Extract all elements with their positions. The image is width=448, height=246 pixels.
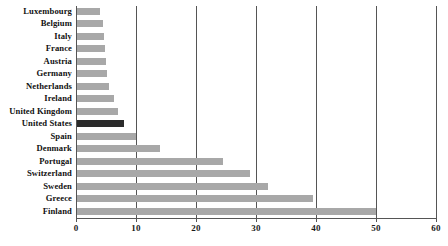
x-tick-label-30: 30: [251, 223, 260, 233]
category-label-united-states: United States: [22, 118, 72, 130]
bar-united-states: [76, 120, 124, 127]
category-label-belgium: Belgium: [41, 18, 72, 30]
bar-netherlands: [76, 83, 109, 90]
x-tick-mark-30: [256, 218, 257, 222]
category-label-germany: Germany: [36, 68, 72, 80]
category-label-united-kingdom: United Kingdom: [9, 106, 72, 118]
bar-germany: [76, 70, 107, 77]
bar-switzerland: [76, 170, 250, 177]
category-label-greece: Greece: [46, 193, 72, 205]
bar-spain: [76, 133, 136, 140]
category-label-sweden: Sweden: [43, 181, 72, 193]
bar-ireland: [76, 95, 114, 102]
category-label-switzerland: Switzerland: [27, 168, 72, 180]
bar-france: [76, 45, 105, 52]
bar-italy: [76, 33, 104, 40]
x-tick-mark-0: [76, 218, 77, 222]
category-label-portugal: Portugal: [39, 156, 72, 168]
bar-greece: [76, 195, 313, 202]
category-label-finland: Finland: [43, 206, 72, 218]
bar-luxembourg: [76, 8, 100, 15]
bar-portugal: [76, 158, 223, 165]
y-axis-line: [76, 6, 77, 218]
x-tick-mark-10: [136, 218, 137, 222]
x-tick-mark-60: [436, 218, 437, 222]
x-tick-mark-50: [376, 218, 377, 222]
x-tick-label-60: 60: [431, 223, 440, 233]
category-label-italy: Italy: [54, 31, 72, 43]
x-tick-mark-20: [196, 218, 197, 222]
bar-finland: [76, 208, 376, 215]
category-label-netherlands: Netherlands: [26, 81, 72, 93]
category-label-denmark: Denmark: [36, 143, 72, 155]
x-tick-mark-40: [316, 218, 317, 222]
category-label-spain: Spain: [50, 131, 72, 143]
x-tick-label-40: 40: [311, 223, 320, 233]
category-label-france: France: [46, 43, 72, 55]
x-tick-label-20: 20: [191, 223, 200, 233]
horizontal-bar-chart: LuxembourgBelgiumItalyFranceAustriaGerma…: [0, 0, 448, 246]
category-label-ireland: Ireland: [44, 93, 72, 105]
bar-austria: [76, 58, 106, 65]
bar-belgium: [76, 20, 103, 27]
x-tick-label-50: 50: [371, 223, 380, 233]
x-tick-label-10: 10: [131, 223, 140, 233]
bar-united-kingdom: [76, 108, 118, 115]
x-tick-label-0: 0: [74, 223, 79, 233]
category-label-luxembourg: Luxembourg: [23, 6, 72, 18]
bar-sweden: [76, 183, 268, 190]
bar-denmark: [76, 145, 160, 152]
category-label-austria: Austria: [44, 56, 72, 68]
